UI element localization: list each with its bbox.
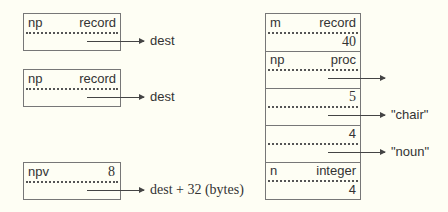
dotted-divider bbox=[26, 181, 118, 183]
row-value: 4 bbox=[349, 183, 356, 197]
pointer-target: dest + 32 (bytes) bbox=[150, 183, 244, 197]
box-name: npv bbox=[28, 165, 49, 179]
row-name: m bbox=[270, 16, 281, 30]
dotted-divider bbox=[268, 143, 358, 145]
row-type: proc bbox=[331, 53, 356, 67]
row-size: 4 bbox=[349, 127, 356, 141]
pointer-arrow bbox=[87, 190, 144, 191]
row-size: 5 bbox=[349, 90, 356, 104]
dotted-divider bbox=[26, 32, 118, 34]
pointer-arrow bbox=[328, 115, 385, 116]
dotted-divider bbox=[268, 69, 358, 71]
dotted-divider bbox=[26, 88, 118, 90]
row-value: 40 bbox=[342, 35, 356, 49]
proc-pointer-arrow bbox=[328, 78, 385, 79]
left-box-2: np record bbox=[23, 69, 121, 107]
box-type: record bbox=[79, 16, 116, 30]
box-name: np bbox=[28, 72, 42, 86]
box-size: 8 bbox=[108, 165, 115, 179]
row-divider bbox=[266, 125, 360, 126]
pointer-arrow bbox=[87, 41, 144, 42]
row-name: n bbox=[270, 164, 277, 178]
pointer-arrow bbox=[87, 97, 144, 98]
row-divider bbox=[266, 88, 360, 89]
dotted-divider bbox=[268, 106, 358, 108]
left-box-3: npv 8 bbox=[23, 162, 121, 200]
pointer-target: dest bbox=[150, 34, 175, 48]
left-box-1: np record bbox=[23, 13, 121, 51]
right-box: m record 40 np proc 5 4 n integer 4 bbox=[265, 13, 361, 200]
row-type: integer bbox=[316, 164, 356, 178]
pointer-target: "chair" bbox=[391, 108, 428, 122]
pointer-arrow bbox=[328, 152, 385, 153]
box-name: np bbox=[28, 16, 42, 30]
row-name: np bbox=[270, 53, 284, 67]
dotted-divider bbox=[268, 180, 358, 182]
row-type: record bbox=[319, 16, 356, 30]
pointer-target: "noun" bbox=[391, 145, 429, 159]
box-type: record bbox=[79, 72, 116, 86]
pointer-target: dest bbox=[150, 90, 175, 104]
